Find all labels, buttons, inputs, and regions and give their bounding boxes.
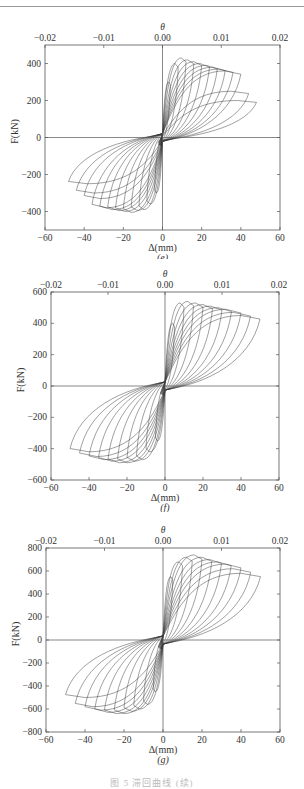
x-tick-label: −60 bbox=[38, 233, 53, 243]
theta-axis-label: θ bbox=[160, 22, 165, 32]
theta-tick-label: 0.02 bbox=[272, 33, 289, 43]
x-tick-label: −20 bbox=[116, 233, 131, 243]
x-tick-label: 60 bbox=[275, 735, 285, 745]
chart-panel-g: −60−40−200204060−0.02−0.010.000.010.02−8… bbox=[0, 518, 304, 777]
x-tick-label: 20 bbox=[198, 483, 208, 493]
x-tick-label: 20 bbox=[197, 735, 207, 745]
y-tick-label: 800 bbox=[28, 543, 43, 553]
y-tick-label: −400 bbox=[22, 681, 42, 691]
hysteresis-chart-g: −60−40−200204060−0.02−0.010.000.010.02−8… bbox=[0, 518, 304, 773]
x-tick-label: 40 bbox=[236, 483, 246, 493]
theta-tick-label: 0.01 bbox=[213, 536, 230, 546]
y-tick-label: −400 bbox=[27, 444, 47, 454]
x-tick-label: −20 bbox=[120, 483, 135, 493]
theta-tick-label: 0.00 bbox=[155, 536, 172, 546]
x-tick-label: 60 bbox=[275, 233, 285, 243]
y-tick-label: −200 bbox=[27, 412, 47, 422]
x-tick-label: 60 bbox=[274, 483, 284, 493]
theta-tick-label: −0.01 bbox=[97, 280, 119, 290]
x-tick-label: −20 bbox=[117, 735, 132, 745]
y-tick-label: −200 bbox=[22, 658, 42, 668]
y-tick-label: 200 bbox=[33, 350, 48, 360]
theta-tick-label: 0.01 bbox=[213, 33, 230, 43]
x-tick-label: −40 bbox=[77, 233, 92, 243]
theta-tick-label: 0.00 bbox=[157, 280, 174, 290]
x-axis-ticks: −60−40−200204060 bbox=[38, 227, 285, 243]
y-tick-label: 0 bbox=[36, 133, 41, 143]
x-axis-ticks: −60−40−200204060 bbox=[44, 477, 284, 493]
hysteresis-chart-f: −60−40−200204060−0.02−0.010.000.010.02−6… bbox=[0, 262, 304, 512]
y-tick-label: 400 bbox=[33, 318, 48, 328]
x-axis-ticks: −60−40−200204060 bbox=[39, 729, 285, 745]
panel-label: (f) bbox=[160, 502, 170, 512]
y-tick-label: −400 bbox=[21, 207, 41, 217]
y-tick-label: 600 bbox=[28, 566, 43, 576]
y-axis-label: F(kN) bbox=[9, 119, 21, 143]
y-tick-label: 0 bbox=[37, 635, 42, 645]
y-tick-label: −800 bbox=[22, 727, 42, 737]
y-tick-label: 0 bbox=[42, 381, 47, 391]
y-tick-label: −200 bbox=[21, 170, 41, 180]
y-tick-label: 400 bbox=[27, 59, 42, 69]
y-tick-label: −600 bbox=[27, 475, 47, 485]
theta-tick-label: 0.02 bbox=[272, 536, 289, 546]
y-tick-label: 200 bbox=[28, 612, 43, 622]
panel-label: (e) bbox=[157, 252, 169, 259]
y-tick-label: −600 bbox=[22, 704, 42, 714]
theta-tick-label: −0.02 bbox=[34, 33, 56, 43]
theta-tick-label: 0.02 bbox=[271, 280, 288, 290]
theta-tick-label: 0.00 bbox=[154, 33, 171, 43]
x-tick-label: −40 bbox=[82, 483, 97, 493]
theta-axis-ticks: −0.02−0.010.000.010.02 bbox=[40, 280, 288, 295]
theta-tick-label: −0.01 bbox=[93, 33, 115, 43]
figure-caption: 图 5 滞回曲线 (续) bbox=[0, 776, 304, 789]
chart-panel-e: −60−40−200204060−0.02−0.010.000.010.02−4… bbox=[0, 14, 304, 263]
x-tick-label: 40 bbox=[236, 233, 246, 243]
theta-tick-label: −0.01 bbox=[94, 536, 116, 546]
theta-axis-label: θ bbox=[163, 269, 168, 279]
hysteresis-chart-e: −60−40−200204060−0.02−0.010.000.010.02−4… bbox=[0, 14, 304, 259]
theta-axis-ticks: −0.02−0.010.000.010.02 bbox=[35, 536, 289, 551]
x-tick-label: 40 bbox=[236, 735, 246, 745]
y-tick-label: 400 bbox=[28, 589, 43, 599]
x-tick-label: −40 bbox=[78, 735, 93, 745]
theta-tick-label: 0.01 bbox=[214, 280, 231, 290]
y-tick-label: 600 bbox=[33, 287, 48, 297]
panel-label: (g) bbox=[157, 754, 169, 766]
y-axis-label: F(kN) bbox=[10, 622, 22, 646]
chart-panel-f: −60−40−200204060−0.02−0.010.000.010.02−6… bbox=[0, 262, 304, 516]
page-header-rule bbox=[0, 6, 304, 7]
x-tick-label: 20 bbox=[197, 233, 207, 243]
theta-axis-label: θ bbox=[161, 525, 166, 535]
y-axis-label: F(kN) bbox=[15, 368, 27, 392]
theta-axis-ticks: −0.02−0.010.000.010.02 bbox=[34, 33, 289, 48]
y-tick-label: 200 bbox=[27, 96, 42, 106]
